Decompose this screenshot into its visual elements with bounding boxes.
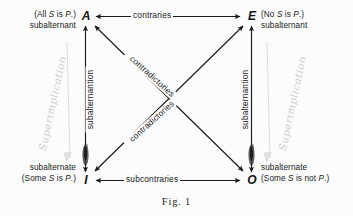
figure-caption: Fig. 1 bbox=[0, 196, 353, 207]
vertex-a-proposition: (All S is P.) bbox=[2, 10, 76, 21]
relation-label-subalternantion-right: subalternantion bbox=[241, 67, 250, 133]
square-of-opposition-figure: Superimplication Superimplication A E I … bbox=[0, 0, 353, 216]
vertex-letter-a: A bbox=[79, 10, 93, 22]
vertex-letter-e: E bbox=[245, 10, 259, 22]
relation-label-subcontraries: subcontraries bbox=[124, 175, 180, 184]
vertex-o-proposition: (Some S is not P.) bbox=[261, 174, 353, 185]
vertex-i-role: subalternate bbox=[0, 163, 76, 174]
vertex-caption-o: subalternate (Some S is not P.) bbox=[261, 163, 353, 184]
vertex-letter-o: O bbox=[245, 174, 259, 186]
ink-smudge-right bbox=[248, 144, 254, 166]
vertex-o-role: subalternate bbox=[261, 163, 353, 174]
vertex-a-role: subalternant bbox=[2, 21, 76, 32]
vertex-caption-i: subalternate (Some S is P.) bbox=[0, 163, 76, 184]
vertex-i-proposition: (Some S is P.) bbox=[0, 174, 76, 185]
relation-label-contraries: contraries bbox=[131, 11, 173, 20]
vertex-caption-e: (No S is P.) subalternant bbox=[261, 10, 351, 31]
pencil-arrow-right bbox=[264, 42, 272, 164]
relation-label-subalternantion-left: subalternantion bbox=[86, 67, 95, 133]
vertex-caption-a: (All S is P.) subalternant bbox=[2, 10, 76, 31]
vertex-e-proposition: (No S is P.) bbox=[261, 10, 351, 21]
vertex-letter-i: I bbox=[79, 174, 93, 186]
ink-smudge-left bbox=[82, 144, 88, 166]
vertex-e-role: subalternant bbox=[261, 21, 351, 32]
